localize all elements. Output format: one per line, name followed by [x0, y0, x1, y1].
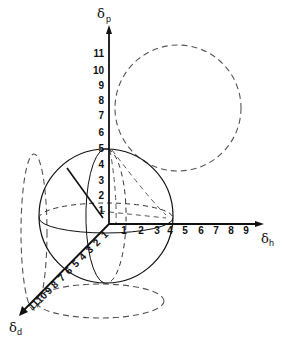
- sphere-outline: [39, 149, 173, 283]
- svg-text:6: 6: [98, 127, 104, 138]
- axis-h-ticks: 1 2 3 4 5 6 7 8 9: [121, 225, 249, 236]
- svg-text:6: 6: [198, 225, 204, 236]
- svg-text:9: 9: [98, 80, 104, 91]
- axis-d-ticks: 1 2 3 4 5 6 7 8 9 10 11: [26, 228, 111, 312]
- svg-text:δ: δ: [9, 320, 17, 335]
- svg-text:1: 1: [98, 205, 104, 216]
- solubility-sphere-diagram: 1 2 3 4 5 6 7 8 9 10 11 1 2 3 4 5 6 7 8 …: [0, 0, 283, 347]
- axis-h-label: δ h: [261, 231, 274, 248]
- svg-text:1: 1: [121, 225, 127, 236]
- axis-p: [106, 25, 112, 224]
- svg-text:δ: δ: [261, 231, 269, 246]
- svg-text:5: 5: [182, 225, 188, 236]
- svg-text:1: 1: [99, 228, 111, 240]
- svg-text:2: 2: [91, 236, 103, 248]
- sphere-equator-back: [39, 203, 173, 218]
- svg-text:d: d: [17, 327, 22, 337]
- svg-text:3: 3: [98, 175, 104, 186]
- svg-text:9: 9: [243, 225, 249, 236]
- svg-text:3: 3: [154, 225, 160, 236]
- svg-text:4: 4: [98, 159, 104, 170]
- svg-text:8: 8: [228, 225, 234, 236]
- svg-text:11: 11: [93, 48, 104, 59]
- svg-text:7: 7: [98, 110, 104, 121]
- svg-text:δ: δ: [97, 6, 105, 21]
- projection-circle-ph: [115, 45, 241, 171]
- projection-ellipse-pd: [21, 154, 47, 310]
- svg-text:8: 8: [98, 95, 104, 106]
- svg-text:p: p: [106, 14, 111, 24]
- svg-text:5: 5: [98, 143, 104, 154]
- sphere-meridian-back: [104, 149, 126, 283]
- svg-text:7: 7: [213, 225, 219, 236]
- sphere-equator-front: [39, 218, 173, 233]
- svg-text:2: 2: [98, 190, 104, 201]
- axis-p-label: δ p: [97, 6, 111, 24]
- sphere-meridian-front: [86, 149, 108, 283]
- svg-text:10: 10: [93, 65, 105, 76]
- svg-text:h: h: [269, 238, 274, 248]
- svg-text:4: 4: [167, 225, 173, 236]
- axis-d-label: δ d: [9, 320, 22, 337]
- axis-p-ticks: 1 2 3 4 5 6 7 8 9 10 11: [93, 48, 105, 216]
- svg-text:2: 2: [138, 225, 144, 236]
